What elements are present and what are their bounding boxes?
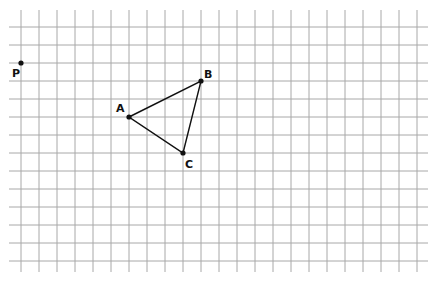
point-label-b: B	[204, 68, 212, 81]
point-label-p: P	[12, 67, 20, 80]
point-p	[18, 60, 23, 65]
grid-lines	[9, 10, 428, 272]
point-label-c: C	[185, 158, 193, 171]
point-c	[180, 150, 185, 155]
point-label-a: A	[116, 102, 125, 115]
point-a	[126, 114, 131, 119]
points: PABC	[12, 60, 212, 171]
grid-diagram: PABC	[0, 0, 435, 282]
point-b	[198, 78, 203, 83]
